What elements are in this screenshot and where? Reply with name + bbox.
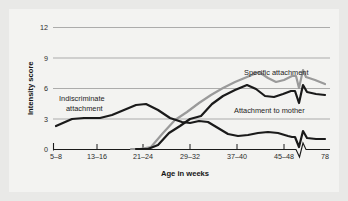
y-axis-ticks: 12 9 6 3 0 — [40, 23, 48, 154]
y-tick-0: 0 — [44, 145, 48, 154]
label-specific-attachment: Specific attachment — [244, 68, 309, 77]
y-tick-9: 9 — [44, 54, 48, 63]
chart-figure: 12 9 6 3 0 Intensity score 5–8 13–16 21–… — [0, 0, 348, 201]
label-indiscriminate-line2: attachment — [66, 104, 103, 113]
y-tick-3: 3 — [44, 115, 48, 124]
x-tick-label-37-40: 37–40 — [227, 152, 247, 161]
x-tick-label-13-16: 13–16 — [87, 152, 107, 161]
label-indiscriminate-line1: Indiscriminate — [59, 94, 105, 103]
x-tick-label-45-48: 45–48 — [274, 152, 294, 161]
series-annotations: Indiscriminate attachment Specific attac… — [59, 68, 309, 115]
x-axis-ticks: 5–8 13–16 21–24 29–32 37–40 45–48 78 — [50, 152, 329, 161]
y-tick-12: 12 — [40, 23, 48, 32]
attachment-line-chart: 12 9 6 3 0 Intensity score 5–8 13–16 21–… — [0, 0, 348, 201]
x-axis-title: Age in weeks — [161, 169, 209, 178]
label-attachment-to-mother: Attachment to mother — [234, 106, 305, 115]
x-tick-label-78: 78 — [321, 152, 329, 161]
x-tick-label-21-24: 21–24 — [133, 152, 153, 161]
x-tick-label-5-8: 5–8 — [50, 152, 62, 161]
x-tick-label-29-32: 29–32 — [180, 152, 200, 161]
y-axis-title: Intensity score — [26, 61, 35, 115]
y-tick-6: 6 — [44, 84, 48, 93]
